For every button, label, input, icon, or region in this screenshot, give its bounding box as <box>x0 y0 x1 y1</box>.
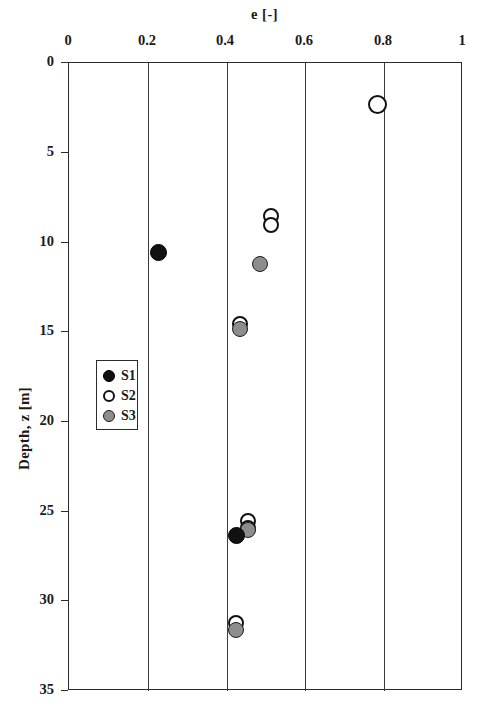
x-tick-label-0p8: 0.8 <box>353 32 413 49</box>
y-tick-label-5: 5 <box>8 143 54 160</box>
y-tick-label-35: 35 <box>8 681 54 698</box>
y-tick-mark-15 <box>61 331 68 332</box>
legend-marker-s2-icon <box>103 390 115 402</box>
legend-item-s1: S1 <box>103 366 130 386</box>
gridline-0p8 <box>384 63 385 691</box>
x-axis-title: e [-] <box>251 6 278 23</box>
y-tick-label-0: 0 <box>8 53 54 70</box>
legend-label-s1: S1 <box>121 369 136 383</box>
gridline-0p6 <box>305 63 306 691</box>
y-tick-label-25: 25 <box>8 502 54 519</box>
legend-label-s3: S3 <box>121 409 136 423</box>
data-point-s2 <box>368 95 387 114</box>
x-tick-label-0p2: 0.2 <box>117 32 177 49</box>
plot-area: S1 S2 S3 <box>68 62 462 690</box>
data-point-s3 <box>252 256 268 272</box>
legend-marker-s1-icon <box>103 370 115 382</box>
y-tick-label-30: 30 <box>8 591 54 608</box>
data-point-s3 <box>232 321 248 337</box>
legend-label-s2: S2 <box>121 389 136 403</box>
gridline-0p2 <box>148 63 149 691</box>
y-tick-label-20: 20 <box>8 412 54 429</box>
y-tick-mark-10 <box>61 242 68 243</box>
gridline-0p4 <box>227 63 228 691</box>
x-tick-label-0p4: 0.4 <box>195 32 255 49</box>
y-tick-label-15: 15 <box>8 322 54 339</box>
data-point-s3 <box>228 622 244 638</box>
scatter-chart-figure: e [-] Depth, z [m] 0 0.2 0.4 0.6 0.8 1 0… <box>0 0 485 707</box>
x-tick-label-0p6: 0.6 <box>274 32 334 49</box>
data-point-s1 <box>150 244 167 261</box>
x-tick-label-0: 0 <box>38 32 98 49</box>
y-tick-label-10: 10 <box>8 233 54 250</box>
data-point-s1 <box>228 527 245 544</box>
y-tick-mark-20 <box>61 421 68 422</box>
x-tick-label-1: 1 <box>432 32 485 49</box>
legend: S1 S2 S3 <box>96 360 138 430</box>
y-tick-mark-30 <box>61 600 68 601</box>
y-tick-mark-35 <box>61 690 68 691</box>
legend-item-s3: S3 <box>103 406 130 426</box>
legend-item-s2: S2 <box>103 386 130 406</box>
legend-marker-s3-icon <box>103 410 115 422</box>
data-point-s2 <box>263 217 279 233</box>
y-tick-mark-5 <box>61 152 68 153</box>
y-tick-mark-0 <box>61 62 68 63</box>
y-tick-mark-25 <box>61 511 68 512</box>
